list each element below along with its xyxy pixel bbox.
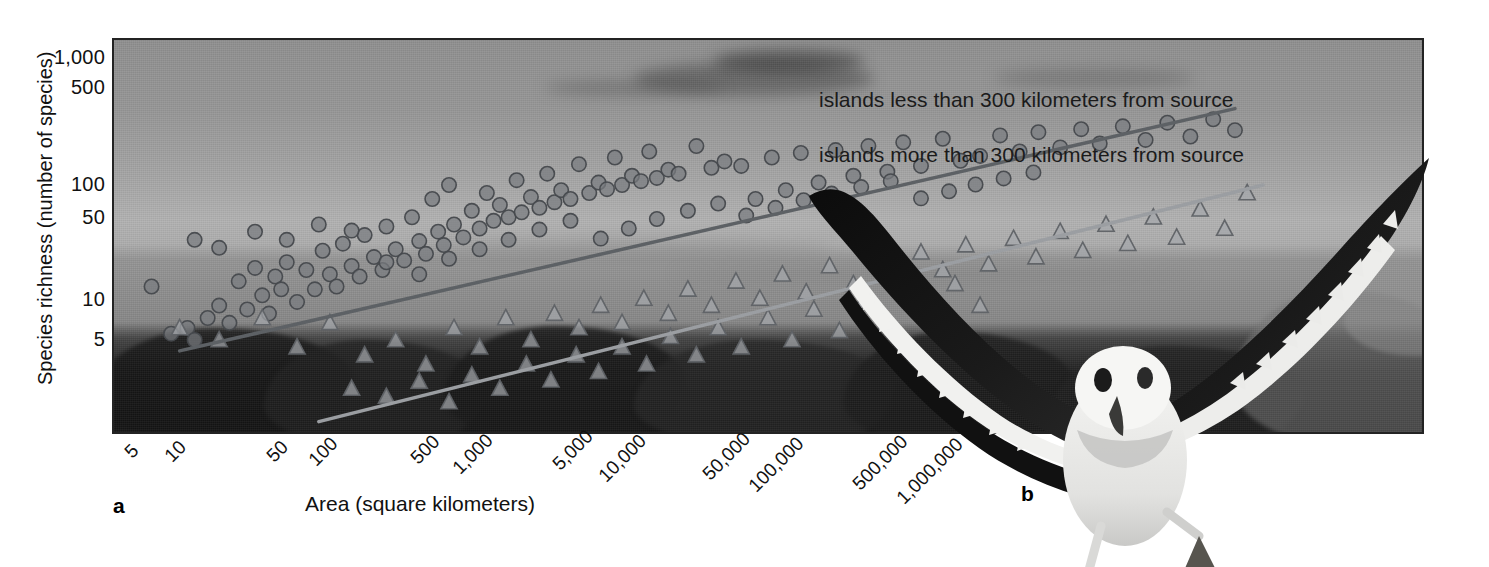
data-point-triangle xyxy=(446,319,462,334)
data-point-circle xyxy=(200,311,214,325)
data-point-circle xyxy=(748,192,762,206)
data-point-circle xyxy=(600,182,614,196)
data-point-circle xyxy=(357,228,371,242)
data-point-triangle xyxy=(492,380,508,395)
x-tick-label-10000: 10,000 xyxy=(594,430,651,487)
albatross-left-leg xyxy=(1089,526,1101,567)
data-point-triangle xyxy=(774,266,790,281)
data-point-circle xyxy=(608,150,622,164)
legend-label-less-than-300km: islands less than 300 kilometers from so… xyxy=(819,88,1233,112)
data-point-circle xyxy=(671,166,685,180)
data-point-circle xyxy=(248,261,262,275)
data-point-circle xyxy=(299,263,313,277)
x-axis-title: Area (square kilometers) xyxy=(305,492,535,516)
data-point-circle xyxy=(765,150,779,164)
data-point-circle xyxy=(456,230,470,244)
data-point-circle xyxy=(1031,125,1045,139)
x-tick-label-50000: 50,000 xyxy=(698,428,755,485)
data-point-circle xyxy=(280,233,294,247)
data-point-circle xyxy=(212,298,226,312)
data-point-triangle xyxy=(636,290,652,305)
data-point-triangle xyxy=(639,356,655,371)
data-point-circle xyxy=(704,161,718,175)
data-point-circle xyxy=(255,288,269,302)
data-point-triangle xyxy=(590,363,606,378)
data-point-circle xyxy=(412,267,426,281)
data-point-circle xyxy=(232,274,246,288)
data-point-circle xyxy=(465,204,479,218)
data-point-triangle xyxy=(660,305,676,320)
panel-label-a: a xyxy=(113,494,125,518)
albatross-in-flight-illustration xyxy=(795,140,1445,520)
data-point-triangle xyxy=(289,339,305,354)
data-point-triangle xyxy=(733,339,749,354)
x-tick-label-500: 500 xyxy=(406,431,444,469)
data-point-circle xyxy=(344,223,358,237)
data-point-circle xyxy=(379,255,393,269)
data-point-circle xyxy=(572,157,586,171)
data-point-circle xyxy=(1074,122,1088,136)
albatross-right-leg xyxy=(1167,512,1199,536)
data-point-circle xyxy=(634,174,648,188)
data-point-circle xyxy=(274,282,288,296)
data-point-triangle xyxy=(357,347,373,362)
data-point-circle xyxy=(472,221,486,235)
data-point-circle xyxy=(532,222,546,236)
x-tick-label-5: 5 xyxy=(120,440,143,463)
data-point-circle xyxy=(681,204,695,218)
data-point-circle xyxy=(144,279,158,293)
data-point-circle xyxy=(594,231,608,245)
albatross-right-foot-webbed xyxy=(1173,536,1229,567)
data-point-circle xyxy=(480,186,494,200)
data-point-triangle xyxy=(593,297,609,312)
data-point-triangle xyxy=(498,309,514,324)
data-point-circle xyxy=(352,269,366,283)
data-point-circle xyxy=(397,253,411,267)
data-point-circle xyxy=(442,252,456,266)
albatross-eye-right xyxy=(1137,367,1153,389)
data-point-circle xyxy=(622,221,636,235)
data-point-circle xyxy=(405,210,419,224)
data-point-circle xyxy=(240,302,254,316)
data-point-triangle xyxy=(680,281,696,296)
data-point-circle xyxy=(187,233,201,247)
data-point-triangle xyxy=(388,331,404,346)
data-point-triangle xyxy=(441,393,457,408)
data-point-circle xyxy=(315,244,329,258)
data-point-circle xyxy=(1228,123,1242,137)
data-point-circle xyxy=(442,178,456,192)
data-point-circle xyxy=(493,198,507,212)
data-point-circle xyxy=(642,144,656,158)
data-point-circle xyxy=(379,219,393,233)
data-point-circle xyxy=(472,242,486,256)
x-tick-label-10: 10 xyxy=(160,436,191,467)
x-tick-label-1000: 1,000 xyxy=(448,430,497,479)
data-point-circle xyxy=(486,214,500,228)
data-point-circle xyxy=(308,282,322,296)
data-point-circle xyxy=(280,255,294,269)
data-point-circle xyxy=(336,236,350,250)
data-point-circle xyxy=(312,217,326,231)
data-point-triangle xyxy=(543,372,559,387)
data-point-triangle xyxy=(688,347,704,362)
y-axis-title: Species richness (number of species) xyxy=(34,52,57,385)
data-point-circle xyxy=(425,192,439,206)
data-point-triangle xyxy=(464,367,480,382)
data-point-circle xyxy=(248,224,262,238)
data-point-circle xyxy=(431,224,445,238)
data-point-triangle xyxy=(418,356,434,371)
data-point-circle xyxy=(563,192,577,206)
x-tick-label-100: 100 xyxy=(304,433,342,471)
data-point-circle xyxy=(540,166,554,180)
data-point-triangle xyxy=(614,314,630,329)
data-point-circle xyxy=(532,201,546,215)
data-point-triangle xyxy=(752,290,768,305)
data-point-circle xyxy=(734,159,748,173)
data-point-circle xyxy=(509,173,523,187)
data-point-circle xyxy=(447,217,461,231)
data-point-circle xyxy=(329,279,343,293)
data-point-circle xyxy=(514,205,528,219)
data-point-circle xyxy=(650,212,664,226)
data-point-circle xyxy=(1116,119,1130,133)
data-point-triangle xyxy=(523,331,539,346)
